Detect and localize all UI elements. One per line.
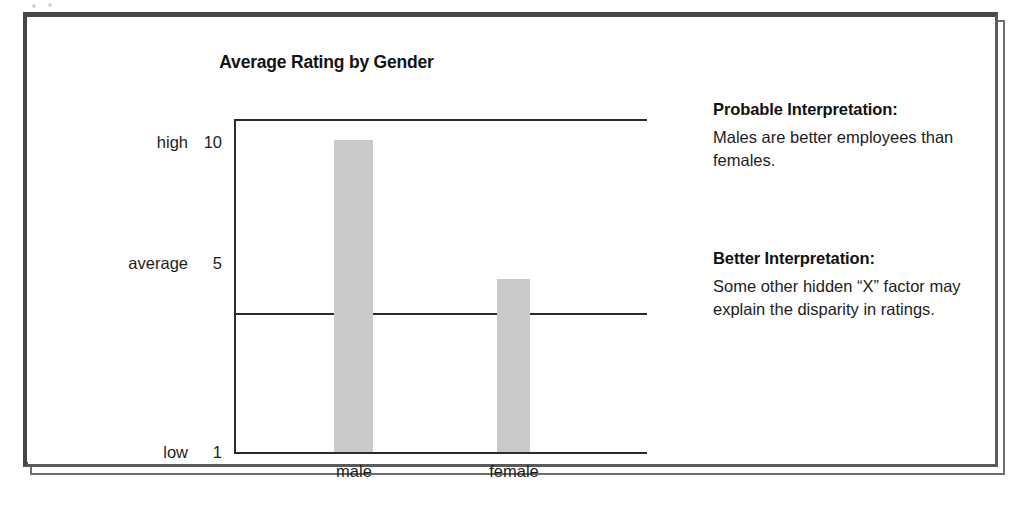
note-heading: Better Interpretation: (713, 249, 1003, 268)
y-axis-line (234, 119, 236, 453)
y-tick-low-value: 1 (196, 442, 222, 462)
y-tick-average: average 5 (54, 253, 222, 273)
note-body: Some other hidden “X” factor may explain… (713, 275, 999, 321)
y-tick-high-name: high (157, 132, 188, 152)
note-body: Males are better employees than females. (713, 126, 999, 172)
bar-chart: Average Rating by Gender high 10 average… (54, 34, 694, 479)
y-tick-low: low 1 (54, 442, 222, 462)
gridline-average (234, 313, 647, 315)
x-tick-label-male: male (309, 462, 399, 481)
figure-content-area: Average Rating by Gender high 10 average… (27, 17, 993, 462)
note-heading: Probable Interpretation: (713, 100, 1003, 119)
note-better-interpretation: Better Interpretation: Some other hidden… (713, 249, 1003, 321)
y-tick-high-value: 10 (196, 132, 222, 152)
bar-female (497, 279, 530, 452)
y-tick-average-value: 5 (196, 253, 222, 273)
y-tick-low-name: low (163, 442, 188, 462)
note-probable-interpretation: Probable Interpretation: Males are bette… (713, 100, 1003, 172)
bar-male (334, 140, 373, 452)
x-tick-label-female: female (469, 462, 559, 481)
scan-artifact-mark (30, 0, 58, 8)
x-axis-line (234, 452, 647, 454)
chart-title: Average Rating by Gender (54, 52, 599, 73)
y-tick-average-name: average (128, 253, 188, 273)
figure-scan: Average Rating by Gender high 10 average… (0, 0, 1021, 517)
gridline-high (234, 119, 647, 121)
y-tick-high: high 10 (54, 132, 222, 152)
